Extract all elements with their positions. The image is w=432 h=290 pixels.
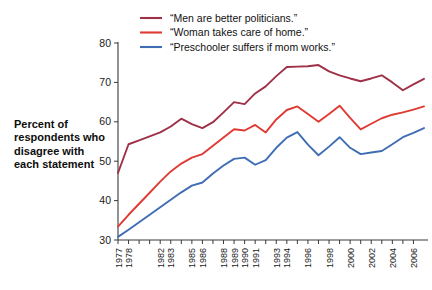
x-tick-label: 1977 bbox=[114, 248, 124, 268]
x-tick-label: 1986 bbox=[198, 248, 208, 268]
x-tick-label: 1994 bbox=[282, 248, 292, 268]
chart-legend: “Men are better politicians.”“Woman take… bbox=[140, 12, 335, 53]
x-tick-label: 1988 bbox=[219, 248, 229, 268]
y-axis-caption: Percent of respondents who disagree with… bbox=[14, 118, 106, 172]
y-tick-label: 80 bbox=[99, 37, 111, 49]
legend-label-2: “Preschooler suffers if mom works.” bbox=[170, 41, 335, 53]
x-tick-label: 1983 bbox=[166, 248, 176, 268]
legend-label-0: “Men are better politicians.” bbox=[170, 12, 298, 24]
x-axis: 1977197819821983198519861988198919901991… bbox=[114, 240, 429, 268]
x-tick-label: 1993 bbox=[272, 248, 282, 268]
y-tick-label: 40 bbox=[99, 194, 111, 206]
y-tick-label: 70 bbox=[99, 76, 111, 88]
series-lines bbox=[118, 65, 424, 237]
chart-container: Percent of respondents who disagree with… bbox=[0, 0, 432, 290]
x-tick-label: 1998 bbox=[325, 248, 335, 268]
x-tick-label: 2000 bbox=[346, 248, 356, 268]
legend-label-1: “Woman takes care of home.” bbox=[170, 26, 309, 38]
x-tick-label: 1990 bbox=[240, 248, 250, 268]
series-line-2 bbox=[118, 128, 424, 237]
x-tick-label: 1978 bbox=[124, 248, 134, 268]
y-tick-label: 30 bbox=[99, 234, 111, 246]
x-tick-label: 2002 bbox=[367, 248, 377, 268]
x-tick-label: 1985 bbox=[187, 248, 197, 268]
x-tick-label: 1991 bbox=[251, 248, 261, 268]
series-line-0 bbox=[118, 65, 424, 173]
x-tick-label: 1989 bbox=[230, 248, 240, 268]
series-line-1 bbox=[118, 106, 424, 227]
x-tick-label: 2004 bbox=[388, 248, 398, 268]
x-tick-label: 1982 bbox=[156, 248, 166, 268]
x-tick-label: 1996 bbox=[303, 248, 313, 268]
x-tick-label: 2006 bbox=[409, 248, 419, 268]
